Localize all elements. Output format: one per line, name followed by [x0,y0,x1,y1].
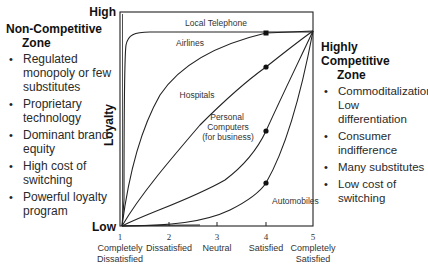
tick-4-number: 4 [264,232,269,242]
label-automobiles: Automobiles [272,196,319,206]
zone-title-line1: Non-Competitive [6,22,102,36]
label-pc-line2: Computers [207,122,249,132]
label-pc-line3: (for business) [202,132,254,142]
label-hospitals: Hospitals [180,90,215,100]
x-tick-labels: 1 Completely Dissatisfied 2 Dissatisfied… [97,232,336,264]
tick-5-number: 5 [311,232,316,242]
list-item: High cost of switching [6,159,116,187]
y-axis-high-label: High [89,5,116,19]
list-item: Commoditalization/ Low differentiation [321,84,428,126]
zone-title-line2: Zone [321,68,428,82]
tick-3-number: 3 [215,232,220,242]
highly-competitive-zone-list: Commoditalization/ Low differentiation C… [321,84,428,205]
tick-5-label-a: Completely [290,243,336,253]
tick-2-number: 2 [167,232,172,242]
marker-automobiles [263,180,268,185]
tick-1-label-b: Dissatisfied [97,254,143,264]
highly-competitive-zone: Highly Competitive Zone Commoditalizatio… [321,40,428,208]
list-item: Many substitutes [321,160,428,174]
markers [263,31,268,186]
list-item: Powerful loyalty program [6,190,116,218]
marker-personal-computers [263,128,268,133]
label-local-telephone: Local Telephone [185,18,247,28]
label-pc-line1: Personal [210,112,244,122]
list-item: Regulated monopoly or few substitutes [6,52,116,94]
tick-2-label: Dissatisfied [146,243,192,253]
highly-competitive-zone-title: Highly Competitive Zone [321,40,428,82]
tick-3-label: Neutral [202,243,231,253]
tick-5-label-b: Satisfied [296,254,331,264]
marker-airlines [264,31,269,36]
tick-1-label-a: Completely [97,243,143,253]
list-item: Consumer indifference [321,129,428,157]
non-competitive-zone-list: Regulated monopoly or few substitutes Pr… [6,52,116,218]
non-competitive-zone-title: Non-Competitive Zone [6,22,116,50]
y-axis-low-label: Low [92,220,117,234]
list-item: Low cost of switching [321,177,428,205]
tick-1-number: 1 [118,232,123,242]
list-item: Dominant brand equity [6,128,116,156]
marker-hospitals [263,64,268,69]
non-competitive-zone: Non-Competitive Zone Regulated monopoly … [6,22,116,221]
tick-4-label: Satisfied [249,243,284,253]
zone-title-line1: Highly Competitive [321,40,390,68]
zone-title-line2: Zone [6,36,116,50]
list-item: Proprietary technology [6,97,116,125]
label-airlines: Airlines [176,38,204,48]
